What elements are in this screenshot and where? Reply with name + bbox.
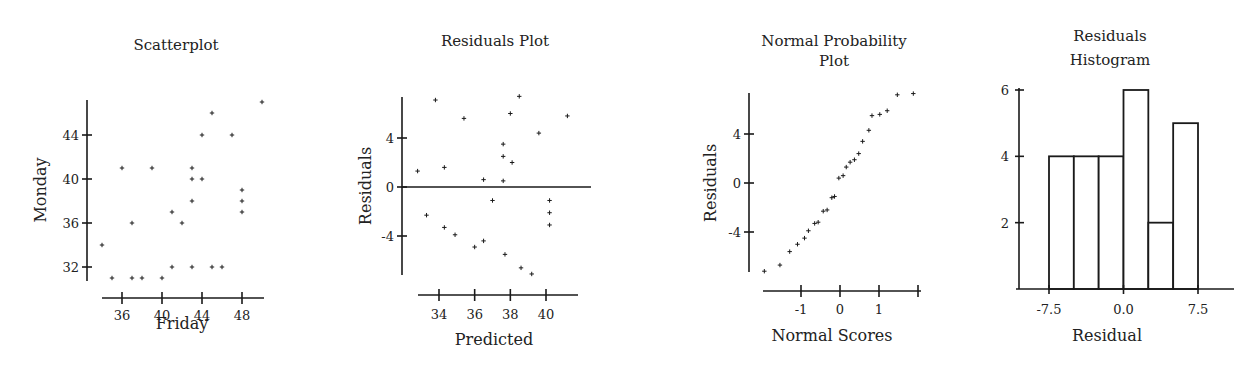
- normal-probability-y-label: Residuals: [701, 144, 720, 222]
- y-tick-label: 0: [386, 180, 394, 195]
- x-tick-label: 36: [466, 307, 483, 322]
- y-tick-label: 44: [62, 128, 79, 143]
- histogram-panel: Residuals Histogram 246 -7.50.07.5 Resid…: [1001, 27, 1234, 345]
- normal-probability-panel: Normal Probability Plot -404 -101 Normal…: [701, 32, 921, 345]
- y-tick-label: 36: [62, 216, 79, 231]
- histogram-bar: [1173, 123, 1198, 289]
- residuals-plot-x-ticks: 34363840: [431, 289, 555, 322]
- scatterplot-panel: Scatterplot 32364044 36404448 Friday Mon…: [31, 36, 264, 333]
- histogram-title-line1: Residuals: [1073, 27, 1146, 45]
- x-tick-label: -7.5: [1036, 302, 1061, 317]
- normal-probability-x-label: Normal Scores: [771, 326, 892, 345]
- x-tick-label: 0.0: [1113, 302, 1134, 317]
- normal-probability-title-line2: Plot: [819, 52, 849, 70]
- residuals-plot-y-label: Residuals: [356, 147, 375, 225]
- histogram-bar: [1099, 156, 1124, 289]
- residuals-plot-title: Residuals Plot: [441, 32, 549, 50]
- histogram-bar: [1049, 156, 1074, 289]
- scatterplot-y-label: Monday: [31, 157, 50, 222]
- y-tick-label: 4: [733, 127, 741, 142]
- x-tick-label: 40: [538, 307, 555, 322]
- y-tick-label: -4: [381, 229, 394, 244]
- normal-probability-points: [762, 91, 915, 273]
- x-tick-label: 38: [502, 307, 519, 322]
- histogram-bar: [1148, 223, 1173, 289]
- scatterplot-x-label: Friday: [156, 314, 209, 333]
- normal-probability-x-ticks: -101: [795, 285, 918, 317]
- normal-probability-y-ticks: -404: [728, 127, 754, 240]
- y-tick-label: -4: [728, 225, 741, 240]
- x-tick-label: 48: [234, 308, 251, 323]
- y-tick-label: 6: [1001, 83, 1009, 98]
- x-tick-label: 7.5: [1188, 302, 1209, 317]
- residuals-plot-x-label: Predicted: [455, 330, 533, 349]
- residuals-plot-points: [415, 94, 569, 276]
- histogram-bar: [1124, 90, 1149, 289]
- figure: Scatterplot 32364044 36404448 Friday Mon…: [0, 0, 1256, 367]
- y-tick-label: 0: [733, 176, 741, 191]
- histogram-title-line2: Histogram: [1070, 51, 1151, 69]
- y-tick-label: 4: [386, 131, 394, 146]
- histogram-bar: [1074, 156, 1099, 289]
- y-tick-label: 40: [62, 172, 79, 187]
- histogram-x-label: Residual: [1072, 326, 1142, 345]
- residuals-plot-y-ticks: -404: [381, 131, 407, 244]
- histogram-bars: [1049, 90, 1198, 289]
- x-tick-label: 36: [114, 308, 131, 323]
- y-tick-label: 4: [1001, 149, 1009, 164]
- histogram-y-ticks: 246: [1001, 83, 1024, 231]
- x-tick-label: 0: [836, 302, 844, 317]
- normal-probability-title-line1: Normal Probability: [761, 32, 907, 50]
- y-tick-label: 2: [1001, 216, 1009, 231]
- x-tick-label: 1: [875, 302, 883, 317]
- scatterplot-title: Scatterplot: [133, 36, 218, 54]
- scatterplot-points: [100, 100, 264, 280]
- x-tick-label: 34: [431, 307, 448, 322]
- x-tick-label: -1: [795, 302, 808, 317]
- y-tick-label: 32: [62, 260, 79, 275]
- residuals-plot-panel: Residuals Plot -404 34363840 Predicted R…: [356, 32, 591, 349]
